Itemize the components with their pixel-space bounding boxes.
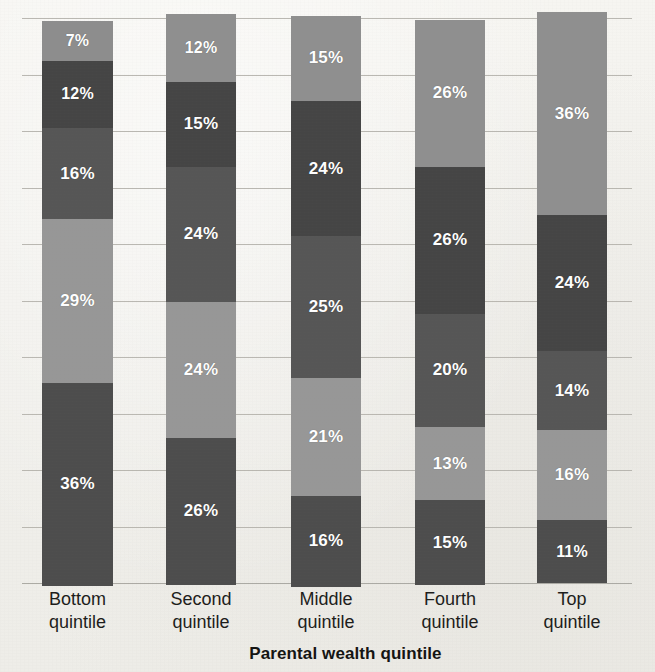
- bar-segment[interactable]: 20%: [415, 314, 485, 427]
- x-tick-label-line1: Fourth: [424, 589, 476, 609]
- bar-segment-label: 24%: [184, 360, 219, 380]
- bar-segment-label: 24%: [309, 159, 344, 179]
- x-tick-label-line2: quintile: [390, 611, 510, 634]
- x-tick-label-line2: quintile: [141, 611, 261, 634]
- bar-group: 7%12%16%29%36%12%15%24%24%26%15%24%25%21…: [0, 0, 655, 600]
- bar-segment-label: 25%: [309, 297, 344, 317]
- bar-segment-label: 21%: [309, 427, 344, 447]
- bar-segment[interactable]: 26%: [415, 20, 485, 167]
- bar-segment[interactable]: 16%: [42, 128, 113, 218]
- bar-segment-label: 15%: [433, 533, 468, 553]
- bar-segment[interactable]: 15%: [291, 16, 361, 101]
- bar-segment-label: 11%: [556, 543, 588, 561]
- x-tick-label-line1: Middle: [299, 589, 352, 609]
- bar-segment-label: 16%: [555, 465, 590, 485]
- x-tick-label-4: Topquintile: [512, 588, 632, 634]
- bar-segment[interactable]: 36%: [42, 383, 113, 586]
- bar-segment-label: 26%: [433, 230, 468, 250]
- plot-area: 7%12%16%29%36%12%15%24%24%26%15%24%25%21…: [0, 0, 655, 600]
- bar-segment-label: 7%: [66, 32, 90, 50]
- x-tick-label-line2: quintile: [266, 611, 386, 634]
- bar-segment-label: 24%: [184, 224, 219, 244]
- chart-page: 7%12%16%29%36%12%15%24%24%26%15%24%25%21…: [0, 0, 655, 672]
- bar-segment-label: 36%: [60, 474, 95, 494]
- bar-segment[interactable]: 12%: [166, 14, 236, 82]
- bar-segment[interactable]: 16%: [537, 430, 607, 520]
- x-tick-label-2: Middlequintile: [266, 588, 386, 634]
- bar-segment[interactable]: 24%: [166, 302, 236, 438]
- stacked-bar[interactable]: 26%26%20%13%15%: [415, 20, 485, 585]
- bar-segment-label: 16%: [309, 531, 344, 551]
- bar-segment-label: 15%: [309, 48, 344, 68]
- bar-segment[interactable]: 12%: [42, 61, 113, 129]
- bar-segment-label: 16%: [60, 164, 95, 184]
- bar-segment-label: 26%: [184, 501, 219, 521]
- bar-segment[interactable]: 24%: [291, 101, 361, 237]
- x-axis-title: Parental wealth quintile: [0, 644, 655, 664]
- stacked-bar[interactable]: 12%15%24%24%26%: [166, 14, 236, 585]
- bar-segment-label: 24%: [555, 273, 590, 293]
- x-tick-label-0: Bottomquintile: [17, 588, 138, 634]
- bar-segment[interactable]: 36%: [537, 12, 607, 215]
- bar-segment[interactable]: 24%: [166, 167, 236, 303]
- bar-segment-label: 13%: [433, 454, 468, 474]
- bar-segment[interactable]: 24%: [537, 215, 607, 351]
- bar-segment-label: 12%: [185, 39, 218, 57]
- bar-segment-label: 20%: [433, 360, 468, 380]
- bar-segment[interactable]: 29%: [42, 219, 113, 383]
- x-axis-title-text: Parental wealth quintile: [249, 644, 441, 664]
- x-tick-label-line2: quintile: [17, 611, 138, 634]
- x-tick-label-1: Secondquintile: [141, 588, 261, 634]
- bar-segment[interactable]: 7%: [42, 21, 113, 61]
- bar-segment-label: 26%: [433, 83, 468, 103]
- x-tick-label-line1: Bottom: [49, 589, 106, 609]
- bar-segment[interactable]: 26%: [166, 438, 236, 585]
- bar-segment-label: 36%: [555, 104, 590, 124]
- bar-segment[interactable]: 13%: [415, 427, 485, 500]
- x-axis-tick-labels: BottomquintileSecondquintileMiddlequinti…: [0, 588, 655, 640]
- bar-segment-label: 15%: [184, 114, 219, 134]
- stacked-bar[interactable]: 15%24%25%21%16%: [291, 16, 361, 587]
- bar-segment[interactable]: 15%: [415, 500, 485, 585]
- bar-segment[interactable]: 11%: [537, 520, 607, 582]
- stacked-bar[interactable]: 7%12%16%29%36%: [42, 21, 113, 586]
- bar-segment-label: 14%: [555, 381, 590, 401]
- bar-segment[interactable]: 26%: [415, 167, 485, 314]
- bar-segment[interactable]: 21%: [291, 378, 361, 497]
- stacked-bar[interactable]: 36%24%14%16%11%: [537, 12, 607, 583]
- bar-segment[interactable]: 25%: [291, 236, 361, 377]
- x-tick-label-line2: quintile: [512, 611, 632, 634]
- x-tick-label-3: Fourthquintile: [390, 588, 510, 634]
- x-tick-label-line1: Second: [170, 589, 231, 609]
- bar-segment-label: 12%: [61, 85, 94, 103]
- x-tick-label-line1: Top: [557, 589, 586, 609]
- bar-segment-label: 29%: [60, 291, 95, 311]
- bar-segment[interactable]: 15%: [166, 82, 236, 167]
- bar-segment[interactable]: 14%: [537, 351, 607, 430]
- bar-segment[interactable]: 16%: [291, 496, 361, 586]
